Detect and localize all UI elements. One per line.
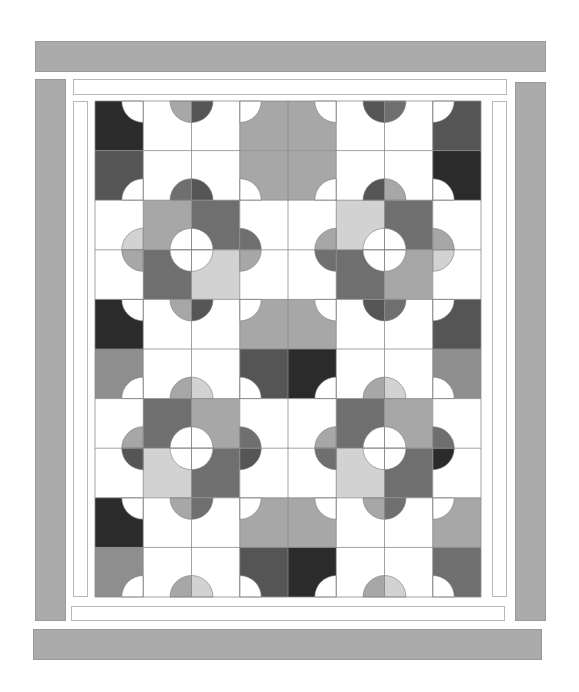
quilt-center-grid <box>0 0 579 692</box>
